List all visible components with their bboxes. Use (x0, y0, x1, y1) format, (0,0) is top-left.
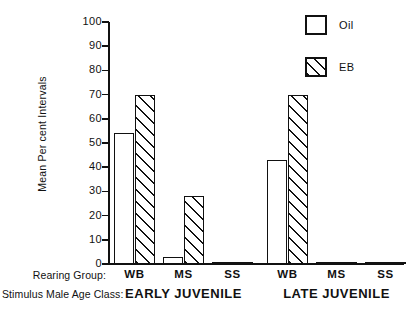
y-axis-tick (102, 94, 109, 96)
open-square-swatch (305, 15, 327, 35)
y-axis-tick-label: 20 (68, 210, 102, 220)
bar-oil-ss-2 (212, 262, 253, 264)
y-axis-tick (102, 166, 109, 168)
rearing-group-label-4: MS (310, 268, 364, 280)
bar-eb-wb-0 (135, 95, 155, 264)
bar-oil-wb-3 (267, 160, 287, 264)
bar-oil-wb-0 (114, 133, 134, 264)
y-axis-tick (102, 191, 109, 193)
y-axis-tick (102, 21, 109, 23)
age-class-label-late-juvenile: LATE JUVENILE (263, 286, 410, 301)
legend-item-eb: EB (305, 56, 405, 78)
bar-oil-ms-4 (316, 262, 357, 264)
y-axis-tick-label: 80 (68, 64, 102, 74)
y-axis-tick (102, 215, 109, 217)
y-axis-tick-label: 100 (68, 16, 102, 26)
y-axis-tick-label: 30 (68, 185, 102, 195)
y-axis-tick-label: 60 (68, 113, 102, 123)
y-axis-tick (102, 239, 109, 241)
rearing-group-label-1: MS (157, 268, 211, 280)
y-axis-tick-label: 10 (68, 234, 102, 244)
y-axis-tick-label: 0 (68, 258, 102, 268)
y-axis-tick (102, 118, 109, 120)
y-axis-tick-label: 90 (68, 40, 102, 50)
y-axis-title: Mean Per cent Intervals (36, 44, 48, 224)
bar-oil-ms-1 (163, 257, 183, 264)
rearing-group-label-0: WB (108, 268, 162, 280)
age-class-label-early-juvenile: EARLY JUVENILE (110, 286, 257, 301)
bar-eb-wb-3 (288, 95, 308, 264)
bar-eb-ms-1 (184, 196, 204, 264)
stimulus-male-age-class-axis-title: Stimulus Male Age Class: (2, 288, 106, 300)
legend-label: EB (339, 61, 354, 73)
bar-oil-ss-5 (365, 262, 406, 264)
rearing-group-label-3: WB (261, 268, 315, 280)
legend-label: Oil (339, 19, 354, 31)
bar-chart-figure: 0102030405060708090100 Mean Per cent Int… (0, 0, 410, 317)
y-axis-tick (102, 45, 109, 47)
y-axis-tick-label: 50 (68, 137, 102, 147)
rearing-group-label-2: SS (206, 268, 260, 280)
y-axis-tick (102, 263, 109, 265)
rearing-group-label-5: SS (359, 268, 410, 280)
y-axis-tick-label: 70 (68, 89, 102, 99)
y-axis-tick (102, 142, 109, 144)
legend-item-oil: Oil (305, 14, 405, 36)
rearing-group-axis-title: Rearing Group: (14, 269, 106, 281)
chart-legend: OilEB (305, 14, 405, 98)
y-axis-tick-label: 40 (68, 161, 102, 171)
y-axis-tick (102, 70, 109, 72)
hatched-square-swatch (305, 57, 327, 77)
